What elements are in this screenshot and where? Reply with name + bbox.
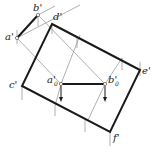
point-a0 (59, 82, 62, 85)
projection-lines (17, 5, 140, 146)
label-f: f' (112, 132, 119, 143)
segment-ab (17, 15, 38, 38)
point-a (15, 36, 18, 39)
direction-arrows (59, 86, 107, 102)
construction-line-5 (88, 84, 105, 120)
point-b (36, 13, 39, 16)
label-a: a' (5, 31, 14, 42)
label-a0-subscript: 0 (54, 80, 58, 87)
point-b0 (103, 82, 106, 85)
label-d: d' (53, 11, 62, 22)
projection-diagram: a' b' c' d' e' f' a' 0 b' 0 (0, 0, 155, 157)
label-c: c' (9, 79, 17, 90)
arrow-down-icon (103, 97, 107, 102)
object-lines (17, 15, 140, 132)
label-b: b' (33, 2, 42, 13)
label-e: e' (142, 65, 151, 76)
arrow-down-icon (59, 97, 63, 102)
plane-cdef (22, 24, 140, 132)
label-b0-subscript: 0 (115, 80, 119, 87)
